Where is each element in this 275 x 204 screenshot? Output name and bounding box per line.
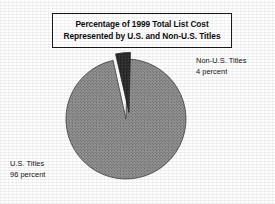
- label-us-titles: U.S. Titles 96 percent: [10, 159, 45, 180]
- label-non-us-titles-value: 4 percent: [196, 67, 246, 78]
- label-us-titles-name: U.S. Titles: [10, 159, 45, 170]
- chart-title-line-1: Percentage of 1999 Total List Cost: [75, 19, 208, 31]
- label-non-us-titles: Non-U.S. Titles 4 percent: [196, 56, 246, 77]
- pie-chart-figure: Percentage of 1999 Total List Cost Repre…: [0, 0, 275, 204]
- label-non-us-titles-name: Non-U.S. Titles: [196, 56, 246, 67]
- chart-title-line-2: Represented by U.S. and Non-U.S. Titles: [64, 31, 221, 43]
- label-us-titles-value: 96 percent: [10, 170, 45, 181]
- chart-title-box: Percentage of 1999 Total List Cost Repre…: [52, 13, 232, 48]
